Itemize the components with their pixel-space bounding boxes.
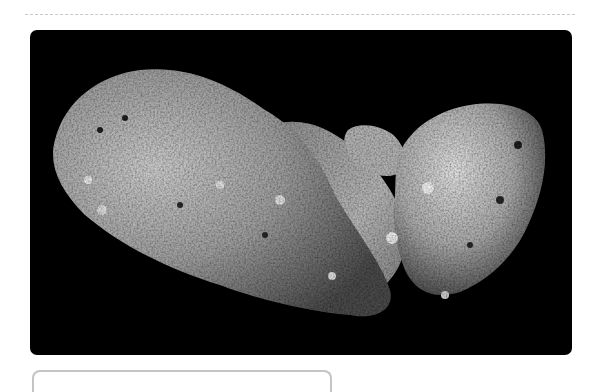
asteroid-illustration (30, 30, 572, 355)
caption-text (34, 372, 330, 380)
asteroid-image (30, 30, 572, 355)
caption-box (32, 370, 332, 392)
dashed-divider (25, 14, 575, 15)
